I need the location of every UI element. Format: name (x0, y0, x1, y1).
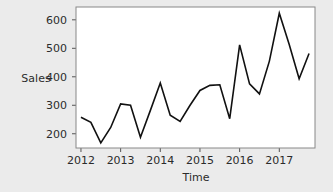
y-tick-label: 300 (46, 99, 67, 112)
y-tick-label: 600 (46, 14, 67, 27)
x-tick-label: 2016 (226, 154, 254, 167)
x-tick-label: 2015 (186, 154, 214, 167)
sales-time-series-chart: 200300400500600 201220132014201520162017… (0, 0, 333, 192)
x-tick-label: 2012 (67, 154, 95, 167)
x-tick-label: 2014 (146, 154, 174, 167)
plot-area-background (76, 7, 315, 148)
y-axis-title: Sales (21, 72, 51, 85)
x-axis-title: Time (182, 171, 210, 184)
chart-canvas: 200300400500600 201220132014201520162017… (0, 0, 333, 192)
y-tick-label: 200 (46, 128, 67, 141)
x-tick-label: 2017 (265, 154, 293, 167)
y-tick-label: 500 (46, 42, 67, 55)
x-tick-label: 2013 (107, 154, 135, 167)
